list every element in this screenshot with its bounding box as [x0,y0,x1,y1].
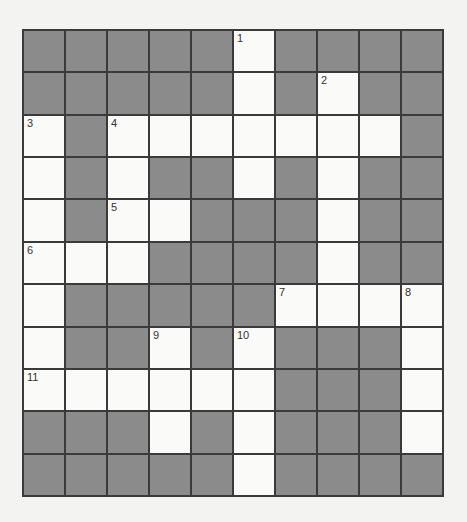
answer-cell[interactable] [192,116,232,156]
block-cell [276,73,316,113]
answer-cell[interactable]: 3 [24,116,64,156]
answer-cell[interactable] [318,158,358,198]
answer-cell[interactable] [24,328,64,368]
answer-cell[interactable]: 7 [276,285,316,325]
answer-cell[interactable] [234,116,274,156]
block-cell [360,73,400,113]
block-cell [402,243,442,283]
block-cell [192,158,232,198]
block-cell [360,328,400,368]
block-cell [66,73,106,113]
answer-cell[interactable]: 8 [402,285,442,325]
block-cell [150,31,190,71]
answer-cell[interactable] [150,116,190,156]
block-cell [234,243,274,283]
block-cell [360,370,400,410]
answer-cell[interactable] [108,370,148,410]
block-cell [402,200,442,240]
block-cell [108,455,148,495]
answer-cell[interactable] [150,200,190,240]
answer-cell[interactable] [108,158,148,198]
answer-cell[interactable]: 1 [234,31,274,71]
block-cell [402,158,442,198]
answer-cell[interactable] [402,370,442,410]
answer-cell[interactable] [234,370,274,410]
block-cell [234,200,274,240]
block-cell [318,370,358,410]
block-cell [192,73,232,113]
answer-cell[interactable] [318,116,358,156]
answer-cell[interactable] [402,328,442,368]
answer-cell[interactable] [234,455,274,495]
block-cell [402,73,442,113]
answer-cell[interactable]: 6 [24,243,64,283]
block-cell [24,73,64,113]
answer-cell[interactable] [360,116,400,156]
clue-number: 8 [405,287,411,298]
answer-cell[interactable]: 11 [24,370,64,410]
block-cell [66,200,106,240]
block-cell [360,243,400,283]
block-cell [108,73,148,113]
block-cell [150,455,190,495]
block-cell [192,285,232,325]
block-cell [318,328,358,368]
answer-cell[interactable] [234,73,274,113]
answer-cell[interactable] [360,285,400,325]
block-cell [276,158,316,198]
block-cell [66,158,106,198]
answer-cell[interactable]: 2 [318,73,358,113]
block-cell [234,285,274,325]
block-cell [24,455,64,495]
clue-number: 4 [111,118,117,129]
answer-cell[interactable] [150,370,190,410]
block-cell [66,328,106,368]
block-cell [360,31,400,71]
answer-cell[interactable] [108,243,148,283]
answer-cell[interactable] [234,158,274,198]
answer-cell[interactable] [66,243,106,283]
answer-cell[interactable] [66,370,106,410]
answer-cell[interactable] [192,370,232,410]
block-cell [150,243,190,283]
clue-number: 5 [111,202,117,213]
block-cell [192,31,232,71]
block-cell [192,455,232,495]
answer-cell[interactable] [150,412,190,452]
answer-cell[interactable] [24,285,64,325]
answer-cell[interactable] [234,412,274,452]
clue-number: 10 [237,330,249,341]
answer-cell[interactable]: 10 [234,328,274,368]
answer-cell[interactable] [24,158,64,198]
block-cell [192,328,232,368]
block-cell [402,455,442,495]
clue-number: 7 [279,287,285,298]
answer-cell[interactable]: 4 [108,116,148,156]
block-cell [276,412,316,452]
clue-number: 1 [237,33,243,44]
answer-cell[interactable] [402,412,442,452]
answer-cell[interactable] [318,285,358,325]
block-cell [108,285,148,325]
block-cell [360,455,400,495]
block-cell [276,370,316,410]
clue-number: 9 [153,330,159,341]
block-cell [66,31,106,71]
block-cell [66,285,106,325]
clue-number: 3 [27,118,33,129]
block-cell [360,200,400,240]
block-cell [24,412,64,452]
block-cell [276,200,316,240]
answer-cell[interactable] [318,200,358,240]
block-cell [192,243,232,283]
block-cell [108,31,148,71]
answer-cell[interactable]: 5 [108,200,148,240]
answer-cell[interactable] [318,243,358,283]
answer-cell[interactable] [24,200,64,240]
block-cell [24,31,64,71]
block-cell [360,412,400,452]
answer-cell[interactable] [276,116,316,156]
answer-cell[interactable]: 9 [150,328,190,368]
block-cell [66,455,106,495]
block-cell [276,455,316,495]
